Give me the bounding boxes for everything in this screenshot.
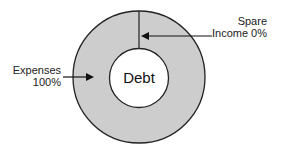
- expenses-label: Expenses 100%: [8, 64, 61, 88]
- spare-income-label: Spare Income 0%: [207, 15, 267, 39]
- center-label-debt: Debt: [115, 69, 163, 86]
- spare-income-label-value: Income 0%: [207, 27, 267, 39]
- donut-chart: Debt Expenses 100% Spare Income 0%: [0, 0, 281, 154]
- spare-income-label-name: Spare: [207, 15, 267, 27]
- expenses-label-value: 100%: [8, 76, 61, 88]
- expenses-label-name: Expenses: [8, 64, 61, 76]
